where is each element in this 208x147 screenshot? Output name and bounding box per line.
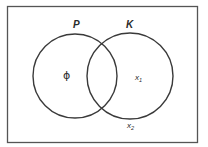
element-phi: ϕ [63, 69, 70, 82]
venn-diagram: P K ϕ x1 x2 [0, 0, 208, 147]
set-k-label: K [126, 19, 134, 30]
element-x2: x2 [126, 121, 134, 131]
set-p-label: P [73, 19, 80, 30]
set-k-circle [87, 33, 173, 119]
universe-rectangle [8, 7, 198, 143]
element-x1: x1 [134, 73, 142, 83]
set-p-circle [33, 34, 117, 118]
